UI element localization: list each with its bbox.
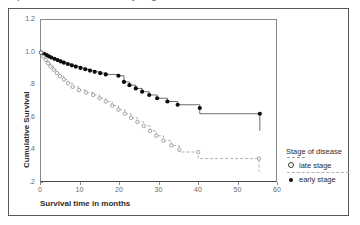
filled-circle-icon	[286, 176, 296, 183]
open-circle-icon	[286, 162, 296, 169]
filled-circle-icon	[66, 62, 70, 66]
legend-item-late-stage[interactable]: late stage	[286, 160, 356, 171]
filled-circle-icon	[88, 68, 92, 72]
clipped-top-title: Kaplan-Meier survival curves by stage of…	[6, 0, 206, 1]
filled-circle-icon	[116, 74, 120, 78]
filled-circle-icon	[147, 93, 151, 97]
filled-circle-icon	[176, 103, 180, 107]
y-tick-label: 1.0	[9, 48, 35, 55]
series-line	[41, 53, 260, 131]
x-tick-label: 20	[109, 186, 129, 193]
open-circle-icon	[117, 108, 120, 111]
y-tick-label: .2	[9, 178, 35, 185]
filled-circle-icon	[104, 72, 108, 76]
series-early-stage	[39, 51, 262, 131]
filled-circle-icon	[70, 63, 74, 67]
filled-circle-icon	[62, 61, 66, 65]
chart-root: Kaplan-Meier survival curves by stage of…	[0, 0, 360, 225]
open-circle-icon	[129, 116, 132, 119]
filled-circle-icon	[98, 71, 102, 75]
open-circle-icon	[39, 51, 42, 54]
open-circle-icon	[178, 148, 181, 151]
legend-divider	[287, 172, 349, 173]
series-late-stage	[39, 51, 260, 172]
open-circle-icon	[98, 97, 101, 100]
y-tick-label: 1.2	[9, 15, 35, 22]
y-tick-label: .8	[9, 80, 35, 87]
legend-item-label: late stage	[299, 161, 332, 170]
filled-circle-icon	[258, 112, 262, 116]
open-circle-icon	[46, 61, 49, 64]
open-circle-icon	[52, 68, 55, 71]
filled-circle-icon	[74, 65, 78, 69]
open-circle-icon	[77, 88, 80, 91]
filled-circle-icon	[134, 86, 138, 90]
open-circle-icon	[257, 157, 260, 160]
open-circle-icon	[49, 65, 52, 68]
legend: Stage of disease late stage early stage	[286, 147, 356, 185]
open-circle-icon	[71, 85, 74, 88]
x-tick-label: 30	[149, 186, 169, 193]
legend-title-rule	[287, 157, 305, 158]
filled-circle-icon	[83, 67, 87, 71]
legend-title: Stage of disease	[286, 147, 356, 156]
x-tick-label: 40	[188, 186, 208, 193]
open-circle-icon	[44, 58, 47, 61]
series-line	[41, 53, 259, 172]
plot-inner	[41, 20, 276, 181]
open-circle-icon	[62, 78, 65, 81]
filled-circle-icon	[140, 90, 144, 94]
x-tick-label: 0	[30, 186, 50, 193]
open-circle-icon	[162, 139, 165, 142]
open-circle-icon	[123, 112, 126, 115]
filled-circle-icon	[165, 99, 169, 103]
x-tick-label: 10	[70, 186, 90, 193]
filled-circle-icon	[198, 106, 202, 110]
open-circle-icon	[104, 100, 107, 103]
filled-circle-icon	[78, 66, 82, 70]
x-tick-label: 60	[267, 186, 287, 193]
open-circle-icon	[170, 144, 173, 147]
filled-circle-icon	[122, 80, 126, 84]
legend-item-early-stage[interactable]: early stage	[286, 174, 356, 185]
y-tick-label: .6	[9, 113, 35, 120]
open-circle-icon	[142, 124, 145, 127]
filled-circle-icon	[127, 83, 131, 87]
filled-circle-icon	[155, 96, 159, 100]
open-circle-icon	[136, 120, 139, 123]
open-circle-icon	[110, 104, 113, 107]
open-circle-icon	[42, 55, 45, 58]
x-tick-label: 50	[228, 186, 248, 193]
open-circle-icon	[84, 91, 87, 94]
y-tick-label: .4	[9, 145, 35, 152]
open-circle-icon	[58, 75, 61, 78]
open-circle-icon	[91, 93, 94, 96]
plot-area	[40, 19, 277, 182]
legend-item-label: early stage	[299, 175, 336, 184]
filled-circle-icon	[93, 70, 97, 74]
survival-curves	[41, 20, 278, 183]
open-circle-icon	[148, 129, 151, 132]
open-circle-icon	[66, 82, 69, 85]
open-circle-icon	[197, 150, 200, 153]
open-circle-icon	[55, 71, 58, 74]
open-circle-icon	[155, 134, 158, 137]
x-axis-title: Survival time in months	[40, 199, 130, 208]
y-axis-title: Cumulative Survival	[22, 92, 31, 168]
